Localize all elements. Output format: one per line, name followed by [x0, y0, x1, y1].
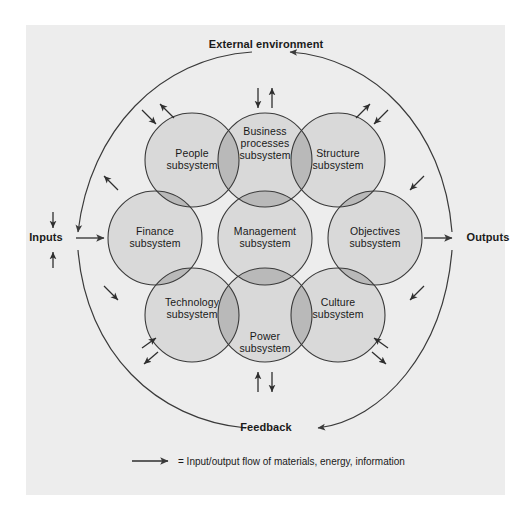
inputs-label: Inputs: [20, 231, 72, 243]
systems-diagram-figure: External environment Inputs Outputs Feed…: [0, 0, 531, 517]
subsystem-label-structure: Structure subsystem: [293, 148, 383, 172]
subsystem-label-people: People subsystem: [147, 148, 237, 172]
subsystem-label-finance: Finance subsystem: [110, 226, 200, 250]
subsystem-label-management: Management subsystem: [215, 226, 315, 250]
feedback-label: Feedback: [231, 421, 301, 433]
legend-description: = Input/output flow of materials, energy…: [178, 456, 405, 467]
bottom-flow-arrows: [258, 372, 272, 392]
subsystem-label-technology: Technology subsystem: [147, 297, 237, 321]
legend: = Input/output flow of materials, energy…: [130, 452, 460, 470]
outputs-label: Outputs: [458, 231, 518, 243]
subsystem-label-culture: Culture subsystem: [293, 297, 383, 321]
subsystem-label-objectives: Objectives subsystem: [330, 226, 420, 250]
top-flow-arrows: [258, 88, 272, 108]
diagram-vector-layer: [0, 0, 531, 517]
subsystem-label-power: Power subsystem: [220, 331, 310, 355]
external-environment-label: External environment: [191, 38, 341, 50]
